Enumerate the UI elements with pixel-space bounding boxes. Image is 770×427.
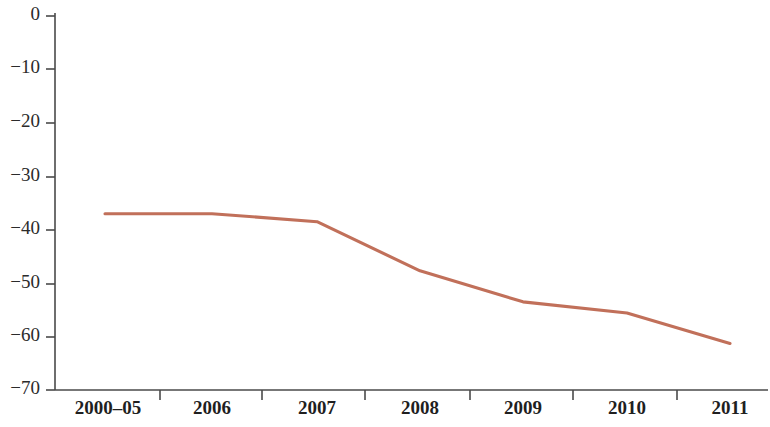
- x-tick-label: 2011: [712, 397, 749, 418]
- y-tick-label: 0: [31, 3, 41, 24]
- y-tick-label: −30: [10, 164, 40, 185]
- x-tick-label: 2006: [193, 397, 231, 418]
- x-tick-label: 2009: [504, 397, 542, 418]
- x-tick-label: 2000–05: [75, 397, 142, 418]
- x-tick-label: 2007: [298, 397, 337, 418]
- chart-canvas: 0 −10 −20 −30 −40 −50 −60 −70 2000–05 20…: [0, 0, 770, 427]
- y-tick-label: −10: [10, 56, 40, 77]
- y-tick-label: −70: [10, 377, 40, 398]
- line-chart: 0 −10 −20 −30 −40 −50 −60 −70 2000–05 20…: [0, 0, 770, 427]
- x-tick-label: 2010: [608, 397, 646, 418]
- x-tick-label: 2008: [401, 397, 439, 418]
- y-tick-label: −20: [10, 110, 40, 131]
- y-tick-label: −50: [10, 271, 40, 292]
- y-tick-label: −60: [10, 324, 40, 345]
- y-tick-label: −40: [10, 217, 40, 238]
